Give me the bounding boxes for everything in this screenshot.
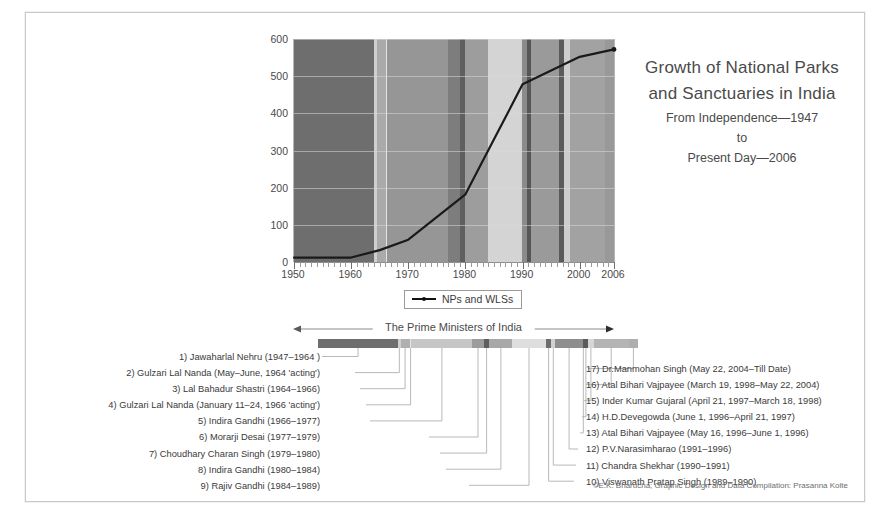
chart-block: 0100200300400500600 19501960197019801990… — [26, 13, 864, 303]
pm-bar-segment-5[interactable] — [411, 339, 472, 348]
x-tick-label-1970: 1970 — [396, 268, 419, 280]
x-tick-label-1980: 1980 — [453, 268, 476, 280]
y-tick-label-300: 300 — [248, 145, 288, 157]
series-line-nps-and-wlss — [294, 39, 616, 263]
pm-list-item-left-4[interactable]: 4) Gulzari Lal Nanda (January 11–24, 196… — [40, 397, 320, 413]
title-sub-3: Present Day—2006 — [620, 150, 864, 167]
pm-bar-segment-1[interactable] — [318, 339, 398, 348]
pm-bar-segment-8[interactable] — [489, 339, 512, 348]
pm-header-label: The Prime Ministers of India — [372, 321, 535, 333]
leader-line — [370, 348, 442, 421]
title-sub-1: From Independence—1947 — [620, 110, 864, 127]
chart-legend: NPs and WLSs — [404, 290, 522, 309]
y-tick-label-100: 100 — [248, 219, 288, 231]
pm-list-item-left-8[interactable]: 8) Indira Gandhi (1980–1984) — [40, 462, 320, 478]
pm-bar-segment-16[interactable] — [594, 339, 629, 348]
legend-line-marker-icon — [411, 294, 437, 304]
leader-line — [366, 348, 411, 405]
x-tick-label-2000: 2000 — [567, 268, 590, 280]
leader-line — [549, 348, 574, 481]
pm-list-item-left-1[interactable]: 1) Jawaharlal Nehru (1947–1964 ) — [40, 349, 320, 365]
title-line-1: Growth of National Parks — [620, 55, 864, 81]
pm-bar-segment-6[interactable] — [472, 339, 483, 348]
x-tick-label-1990: 1990 — [510, 268, 533, 280]
title-sub-2: to — [620, 130, 864, 147]
pm-list-item-left-6[interactable]: 6) Morarji Desai (1977–1979) — [40, 429, 320, 445]
pm-list-left: 1) Jawaharlal Nehru (1947–1964 )2) Gulza… — [40, 349, 320, 494]
y-tick-label-400: 400 — [248, 107, 288, 119]
leader-line — [569, 348, 578, 449]
pm-bar-segment-12[interactable] — [555, 339, 583, 348]
x-tick-label-1960: 1960 — [338, 268, 361, 280]
pm-list-item-right-5[interactable]: 13) Atal Bihari Vajpayee (May 16, 1996–J… — [586, 425, 858, 441]
poster-title: Growth of National Parks and Sanctuaries… — [620, 55, 864, 167]
pm-list-item-left-5[interactable]: 5) Indira Gandhi (1966–1977) — [40, 413, 320, 429]
leader-line — [553, 348, 576, 465]
leader-line — [355, 348, 399, 373]
poster-card: 0100200300400500600 19501960197019801990… — [25, 12, 865, 502]
leader-line — [429, 348, 478, 437]
x-axis-labels: 1950196019701980199020002006 — [293, 268, 615, 286]
pm-bar-segment-3[interactable] — [401, 339, 410, 348]
credits-line: ©E.K. Bharucha; Graphic Design and Data … — [26, 481, 848, 490]
series-polyline — [294, 49, 614, 257]
pm-list-item-left-3[interactable]: 3) Lal Bahadur Shastri (1964–1966) — [40, 381, 320, 397]
pm-list-item-left-7[interactable]: 7) Choudhary Charan Singh (1979–1980) — [40, 446, 320, 462]
y-tick-label-600: 600 — [248, 33, 288, 45]
pm-list-item-right-6[interactable]: 12) P.V.Narasimharao (1991–1996) — [586, 441, 858, 457]
chart-legend-label: NPs and WLSs — [442, 293, 513, 305]
leader-line — [322, 348, 358, 357]
pm-list-item-left-2[interactable]: 2) Gulzari Lal Nanda (May–June, 1964 'ac… — [40, 365, 320, 381]
pm-list-item-right-2[interactable]: 16) Atal Bihari Vajpayee (March 19, 1998… — [586, 377, 858, 393]
pm-timeline-bar — [318, 339, 638, 348]
pm-list-item-right-3[interactable]: 15) Inder Kumar Gujaral (April 21, 1997–… — [586, 393, 858, 409]
series-end-marker — [612, 47, 617, 52]
pm-bar-segment-17[interactable] — [629, 339, 638, 348]
y-axis-labels: 0100200300400500600 — [248, 39, 288, 262]
pm-header: The Prime Ministers of India — [291, 321, 616, 337]
x-tick-label-2006: 2006 — [601, 268, 624, 280]
y-tick-label-500: 500 — [248, 70, 288, 82]
leader-line — [360, 348, 405, 389]
y-tick-label-200: 200 — [248, 182, 288, 194]
leader-line — [446, 348, 501, 469]
y-tick-label-0: 0 — [248, 256, 288, 268]
leader-line — [469, 348, 529, 485]
pm-list-item-right-1[interactable]: 17) Dr.Manmohan Singh (May 22, 2004–Till… — [586, 361, 858, 377]
leader-line — [580, 348, 583, 433]
title-line-2: and Sanctuaries in India — [620, 81, 864, 107]
x-tick-label-1950: 1950 — [281, 268, 304, 280]
infographic-root: 0100200300400500600 19501960197019801990… — [0, 0, 888, 517]
pm-bar-segment-9[interactable] — [512, 339, 545, 348]
pm-list-item-right-7[interactable]: 11) Chandra Shekhar (1990–1991) — [586, 458, 858, 474]
leader-line — [440, 348, 487, 453]
pm-list-item-right-4[interactable]: 14) H.D.Devegowda (June 1, 1996–April 21… — [586, 409, 858, 425]
plot-area — [293, 39, 614, 262]
pm-list-right: 17) Dr.Manmohan Singh (May 22, 2004–Till… — [586, 361, 858, 490]
